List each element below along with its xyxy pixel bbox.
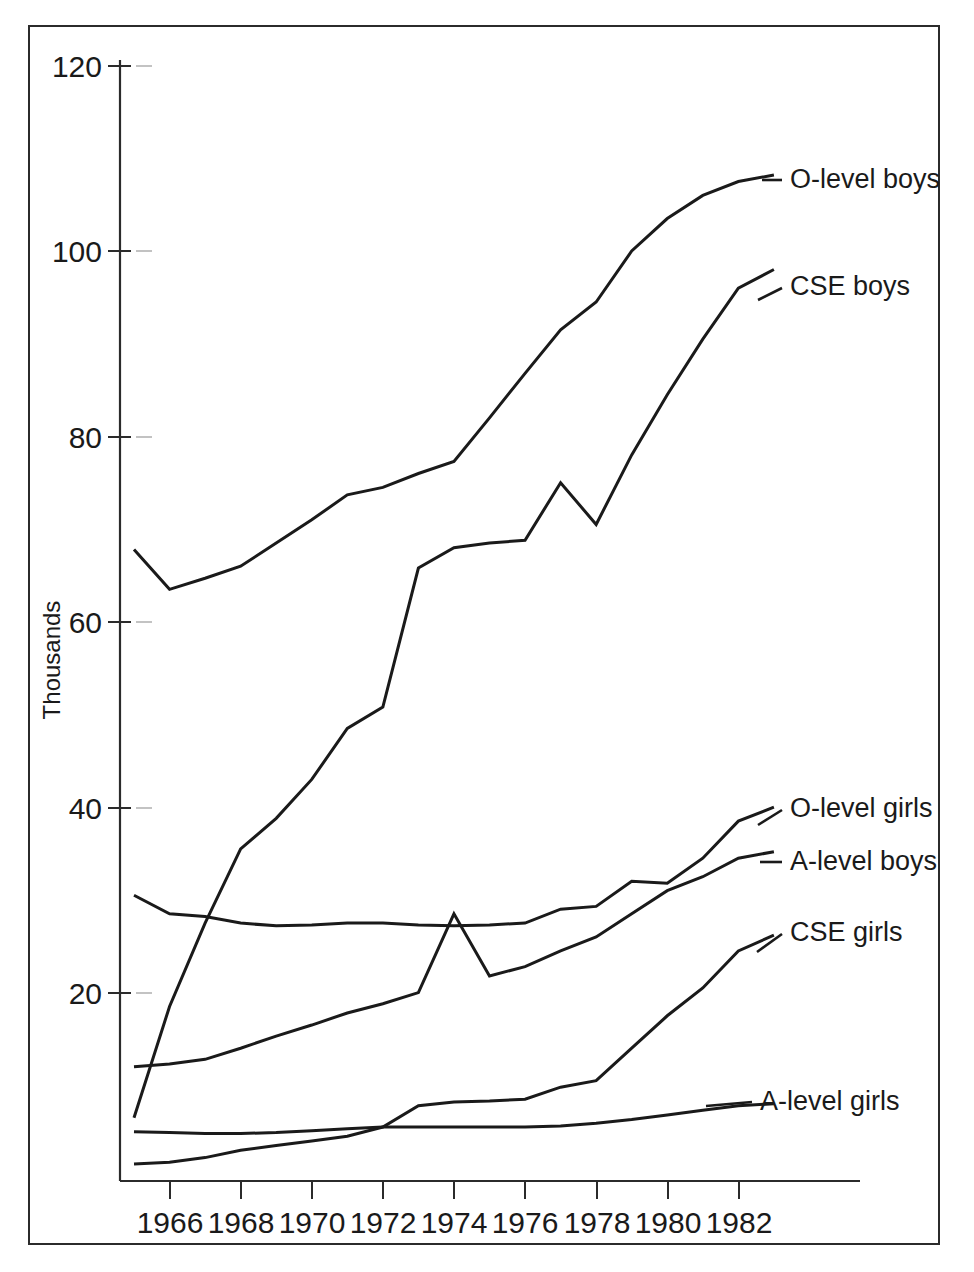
x-tick-label-1980: 1980 bbox=[635, 1206, 702, 1239]
x-tick-label-1978: 1978 bbox=[564, 1206, 631, 1239]
y-tick-label-60: 60 bbox=[69, 606, 102, 639]
y-tick-label-120: 120 bbox=[52, 50, 102, 83]
series-line-a-level-boys bbox=[134, 852, 774, 1067]
series-line-cse-girls bbox=[134, 935, 774, 1164]
series-line-a-level-girls bbox=[134, 1104, 774, 1134]
series-label-a-level-boys: A-level boys bbox=[790, 846, 937, 876]
x-tick-label-1972: 1972 bbox=[350, 1206, 417, 1239]
x-ticks bbox=[170, 1181, 739, 1199]
y-tick-label-40: 40 bbox=[69, 792, 102, 825]
series-label-o-level-girls: O-level girls bbox=[790, 793, 933, 823]
y-tick-label-100: 100 bbox=[52, 235, 102, 268]
y-tick-label-20: 20 bbox=[69, 977, 102, 1010]
x-tick-label-1974: 1974 bbox=[421, 1206, 488, 1239]
x-tick-label-1966: 1966 bbox=[137, 1206, 204, 1239]
y-axis-title: Thousands bbox=[38, 601, 65, 720]
x-tick-label-1976: 1976 bbox=[492, 1206, 559, 1239]
series-line-o-level-girls bbox=[134, 807, 774, 926]
series-line-o-level-boys bbox=[134, 175, 774, 589]
series-label-cse-girls: CSE girls bbox=[790, 917, 903, 947]
x-tick-label-1970: 1970 bbox=[279, 1206, 346, 1239]
x-tick-label-1982: 1982 bbox=[706, 1206, 773, 1239]
x-tick-label-1968: 1968 bbox=[208, 1206, 275, 1239]
leader-line-cse-boys bbox=[758, 288, 782, 300]
series-line-cse-boys bbox=[134, 270, 774, 1118]
y-tick-label-80: 80 bbox=[69, 421, 102, 454]
series-label-a-level-girls: A-level girls bbox=[760, 1086, 900, 1116]
series-label-layer: O-level boysCSE boysO-level girlsA-level… bbox=[706, 164, 940, 1116]
series-layer bbox=[134, 175, 774, 1164]
series-label-cse-boys: CSE boys bbox=[790, 271, 910, 301]
y-ticks bbox=[108, 66, 152, 993]
series-label-o-level-boys: O-level boys bbox=[790, 164, 940, 194]
line-chart: 120 100 80 60 40 20 Thousands 1966 1968 … bbox=[0, 0, 974, 1272]
